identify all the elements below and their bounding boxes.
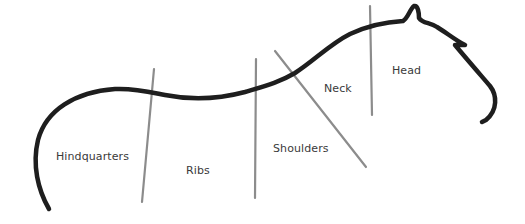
horse-regions-diagram: Hindquarters Ribs Shoulders Neck Head [0, 0, 525, 224]
divider-neck-head [370, 6, 372, 115]
diagram-canvas [0, 0, 525, 224]
divider-ribs-shoulders [255, 59, 256, 198]
horse-outline [36, 6, 496, 209]
label-shoulders: Shoulders [273, 142, 329, 155]
label-ribs: Ribs [186, 164, 210, 177]
label-hindquarters: Hindquarters [56, 150, 129, 163]
label-head: Head [392, 64, 421, 77]
label-neck: Neck [324, 82, 352, 95]
